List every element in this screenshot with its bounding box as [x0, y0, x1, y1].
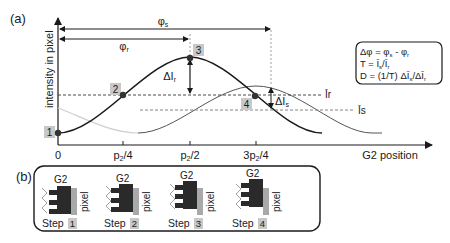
x-tick-3p2-4: 3p2/4: [243, 149, 268, 162]
x-tick-p2-4: p2/4: [113, 149, 132, 162]
step-3: G2 pixel Step 3: [168, 170, 216, 229]
panel-b-label: (b): [16, 169, 32, 184]
phi-s-label: φs: [158, 15, 169, 28]
panel-a-label: (a): [10, 11, 26, 26]
figure-canvas: (a) intensity in pixel 0 p2/4 p2/2 3p2/4…: [0, 0, 450, 243]
formula-line-1: Δφ = φs - φr: [360, 46, 409, 58]
faded-curve: [58, 108, 138, 133]
pixel-bar: [197, 188, 203, 215]
step-1: G2 pixel Step 1: [42, 174, 90, 229]
y-axis-label: intensity in pixel: [43, 30, 55, 108]
grating-icon: [111, 184, 133, 212]
level-s-label: Īs: [358, 105, 366, 116]
svg-text:pixel: pixel: [205, 191, 216, 212]
svg-text:Step: Step: [104, 217, 126, 229]
svg-text:2: 2: [132, 218, 137, 229]
svg-text:Step: Step: [168, 217, 190, 229]
svg-text:3: 3: [196, 45, 202, 56]
svg-text:4: 4: [260, 218, 265, 229]
formula-box: Δφ = φs - φr T = Īs/Īr D = (1/T) ΔĪs/ΔĪr: [356, 42, 442, 84]
pixel-bar: [133, 188, 139, 215]
svg-text:3: 3: [196, 218, 201, 229]
x-tick-p2-2: p2/2: [180, 149, 199, 162]
step-2: G2 pixel Step 2: [104, 173, 152, 229]
pixel-bar: [71, 188, 77, 215]
svg-text:pixel: pixel: [141, 191, 152, 212]
svg-text:G2: G2: [116, 173, 130, 184]
formula-line-2: T = Īs/Īr: [360, 58, 389, 70]
svg-text:1: 1: [70, 218, 75, 229]
svg-text:G2: G2: [246, 168, 260, 179]
pixel-bar: [263, 188, 269, 215]
grating-icon: [175, 181, 197, 209]
step-4: G2 pixel Step 4: [232, 168, 282, 229]
x-tick-0: 0: [55, 149, 61, 161]
svg-text:Step: Step: [232, 217, 254, 229]
formula-line-3: D = (1/T) ΔĪs/ΔĪr: [360, 70, 426, 82]
svg-text:pixel: pixel: [271, 191, 282, 212]
point-2: 2: [110, 83, 126, 98]
point-1: 1: [44, 126, 61, 138]
svg-text:2: 2: [113, 84, 119, 95]
svg-text:G2: G2: [54, 174, 68, 185]
svg-text:1: 1: [47, 127, 53, 138]
level-r-label: Īr: [325, 89, 332, 100]
svg-text:pixel: pixel: [79, 191, 90, 212]
grating-icon: [49, 186, 71, 214]
svg-text:Step: Step: [42, 217, 64, 229]
delta-ir-label: ΔIr: [163, 70, 176, 83]
svg-text:G2: G2: [180, 170, 194, 181]
grating-icon: [241, 179, 263, 207]
phi-r-label: φr: [119, 40, 129, 53]
delta-is-label: ΔIs: [275, 95, 289, 108]
svg-text:4: 4: [244, 99, 250, 110]
x-axis-label: G2 position: [362, 149, 418, 161]
